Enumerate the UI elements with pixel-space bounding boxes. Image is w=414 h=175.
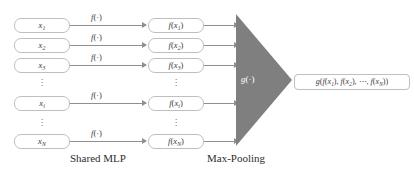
- mlp-arrow-label-5: f(·): [91, 128, 102, 138]
- input-node-xN-label: xN: [38, 136, 46, 147]
- feature-node-fx3[interactable]: f(x3): [148, 58, 204, 73]
- mlp-arrow-head-3: [142, 62, 147, 68]
- output-node-label: g(f(x1), f(x2), ⋯, f(xN)): [316, 77, 388, 87]
- input-node-xi[interactable]: xi: [14, 96, 70, 111]
- input-node-x2[interactable]: x2: [14, 38, 70, 53]
- mlp-arrow-head-5: [142, 138, 147, 144]
- input-node-x2-label: x2: [39, 40, 46, 51]
- input-column-ellipsis-lower: ...: [37, 116, 47, 126]
- feature-node-fxN-label: f(xN): [168, 136, 184, 147]
- mlp-arrow-label-2: f(·): [91, 32, 102, 42]
- pool-arrow-shaft-1: [204, 25, 238, 26]
- mlp-arrow-shaft-3: [70, 65, 146, 66]
- feature-column-ellipsis-upper: ...: [171, 76, 181, 86]
- feature-node-fx1[interactable]: f(x1): [148, 18, 204, 33]
- pool-arrow-shaft-3: [204, 65, 238, 66]
- pooling-function-label: g(·): [241, 74, 255, 84]
- mlp-arrow-label-1: f(·): [91, 12, 102, 22]
- output-node-global-feature[interactable]: g(f(x1), f(x2), ⋯, f(xN)): [294, 74, 410, 90]
- caption-max-pooling: Max-Pooling: [207, 152, 265, 164]
- feature-node-fx2-label: f(x2): [169, 40, 184, 51]
- feature-node-fx1-label: f(x1): [169, 20, 184, 31]
- input-node-x3-label: x3: [39, 60, 46, 71]
- input-node-x1-label: x1: [39, 20, 46, 31]
- feature-node-fxi[interactable]: f(xi): [148, 96, 204, 111]
- mlp-arrow-shaft-2: [70, 45, 146, 46]
- feature-node-fx3-label: f(x3): [169, 60, 184, 71]
- mlp-arrow-shaft-1: [70, 25, 146, 26]
- input-node-x1[interactable]: x1: [14, 18, 70, 33]
- mlp-arrow-head-4: [142, 100, 147, 106]
- feature-column-ellipsis-lower: ...: [171, 116, 181, 126]
- input-node-xN[interactable]: xN: [14, 134, 70, 149]
- architecture-diagram: x1 x2 x3 xi xN ... ... f(·) f(·) f(·) f(…: [0, 0, 414, 175]
- pool-arrow-shaft-5: [204, 141, 238, 142]
- mlp-arrow-label-4: f(·): [91, 90, 102, 100]
- pool-arrow-shaft-4: [204, 103, 238, 104]
- mlp-arrow-head-1: [142, 22, 147, 28]
- mlp-arrow-head-2: [142, 42, 147, 48]
- mlp-arrow-shaft-4: [70, 103, 146, 104]
- mlp-arrow-shaft-5: [70, 141, 146, 142]
- input-column-ellipsis-upper: ...: [37, 76, 47, 86]
- caption-shared-mlp: Shared MLP: [70, 152, 126, 164]
- feature-node-fxN[interactable]: f(xN): [148, 134, 204, 149]
- feature-node-fx2[interactable]: f(x2): [148, 38, 204, 53]
- input-node-xi-label: xi: [39, 98, 45, 109]
- feature-node-fxi-label: f(xi): [169, 98, 183, 109]
- input-node-x3[interactable]: x3: [14, 58, 70, 73]
- mlp-arrow-label-3: f(·): [91, 52, 102, 62]
- pool-arrow-shaft-2: [204, 45, 238, 46]
